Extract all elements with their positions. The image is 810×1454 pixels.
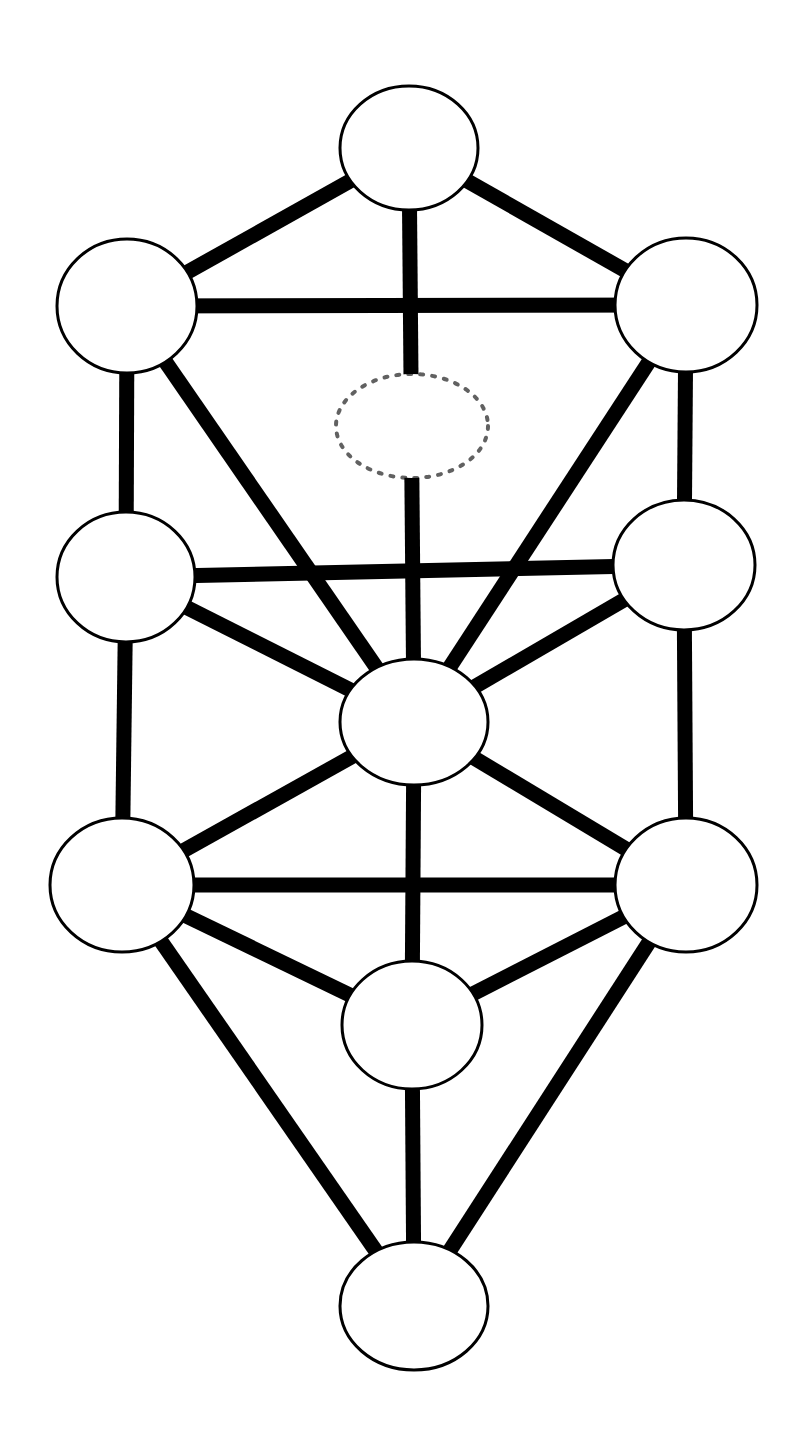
node-keter[interactable]: [340, 86, 478, 210]
edge-binah-chokhmah: [127, 305, 686, 306]
node-chesed[interactable]: [613, 500, 755, 630]
node-hod[interactable]: [50, 818, 194, 952]
diagram-canvas: [0, 0, 810, 1454]
node-daat[interactable]: [336, 374, 488, 478]
node-gevurah[interactable]: [57, 512, 195, 642]
node-tiferet[interactable]: [340, 659, 488, 785]
node-yesod[interactable]: [342, 961, 482, 1089]
node-chokhmah[interactable]: [615, 238, 757, 372]
node-binah[interactable]: [57, 239, 197, 373]
node-malkuth[interactable]: [340, 1242, 488, 1370]
tree-of-life-graph: [0, 0, 810, 1454]
node-netzach[interactable]: [615, 818, 757, 952]
